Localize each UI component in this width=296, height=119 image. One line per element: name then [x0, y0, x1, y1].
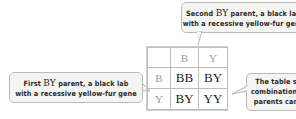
col-header: Y	[199, 48, 228, 68]
corner-cell	[148, 48, 171, 68]
col-header: B	[171, 48, 199, 68]
callout-line: The table s	[247, 77, 296, 87]
callout-pointer	[196, 31, 208, 47]
callout-first-parent: First BY parent, a black lab with a rece…	[9, 72, 143, 103]
row-header: B	[148, 68, 171, 89]
callout-line: First BY parent, a black lab	[10, 78, 142, 89]
genotype-cell: YY	[199, 89, 228, 110]
row-header: Y	[148, 89, 171, 110]
callout-line: with a recessive yellow-fur gene	[10, 89, 142, 99]
genotype-cell: BY	[171, 89, 199, 110]
callout-line: with a recessive yellow-fur gene	[182, 19, 296, 29]
callout-line: Second BY parent, a black lab	[182, 8, 296, 19]
genotype-cell: BY	[199, 68, 228, 89]
callout-pointer	[231, 85, 248, 97]
callout-second-parent: Second BY parent, a black lab with a rec…	[181, 2, 296, 33]
punnett-square: B Y B BB BY Y BY YY	[147, 47, 228, 110]
genotype-cell: BB	[171, 68, 199, 89]
callout-line: combinations	[247, 87, 296, 97]
callout-table-explanation: The table s combinations parents can	[246, 73, 296, 111]
callout-line: parents can	[247, 97, 296, 107]
